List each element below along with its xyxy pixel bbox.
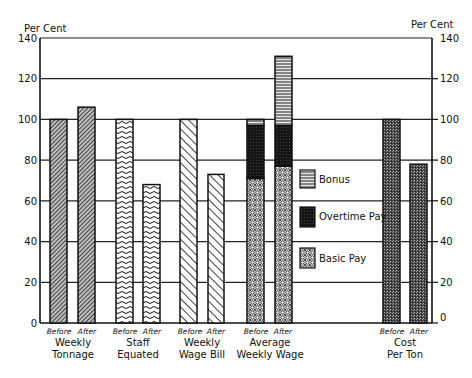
tick-label: 60 bbox=[24, 196, 37, 207]
legend-label-overtime: Overtime Pay bbox=[319, 211, 387, 222]
gridlines bbox=[40, 38, 432, 282]
tick-label: 140 bbox=[440, 33, 459, 44]
label-before: Before bbox=[113, 327, 138, 336]
group-labels: Weekly Tonnage Staff Equated Weekly Wage… bbox=[51, 337, 423, 360]
bar-wage-bill-after bbox=[208, 174, 224, 323]
label-before: Before bbox=[380, 327, 405, 336]
label-after: After bbox=[142, 327, 162, 336]
label-after: After bbox=[409, 327, 429, 336]
bar-weekly-tonnage-before bbox=[50, 119, 67, 323]
bar-avg-wage-after-overtime bbox=[275, 126, 292, 167]
tick-label: 120 bbox=[440, 73, 459, 84]
group-label: Staff bbox=[126, 337, 150, 348]
right-tick-labels: 0 20 40 60 80 100 120 140 bbox=[440, 33, 459, 323]
group-label: Wage Bill bbox=[179, 349, 225, 360]
tick-label: 100 bbox=[440, 114, 459, 125]
tick-label: 80 bbox=[24, 155, 37, 166]
group-label: Average bbox=[249, 337, 290, 348]
legend-swatch-basic bbox=[300, 248, 315, 268]
bar-staff-equated-before bbox=[116, 119, 133, 323]
legend-swatch-bonus bbox=[300, 170, 315, 188]
group-label: Tonnage bbox=[51, 349, 94, 360]
tick-label: 80 bbox=[440, 155, 453, 166]
label-after: After bbox=[273, 327, 293, 336]
tick-label: 40 bbox=[24, 236, 37, 247]
label-before: Before bbox=[178, 327, 203, 336]
tick-label: 0 bbox=[31, 318, 37, 329]
tick-label: 140 bbox=[18, 33, 37, 44]
tick-label: 0 bbox=[440, 312, 446, 323]
bar-weekly-tonnage-after bbox=[78, 107, 95, 323]
bar-avg-wage-after-bonus bbox=[275, 56, 292, 125]
tick-label: 100 bbox=[18, 114, 37, 125]
tick-label: 120 bbox=[18, 73, 37, 84]
bar-avg-wage-before-bonus bbox=[247, 119, 264, 125]
tick-label: 40 bbox=[440, 236, 453, 247]
axes bbox=[40, 38, 432, 323]
label-after: After bbox=[206, 327, 226, 336]
bar-avg-wage-after-basic bbox=[275, 166, 292, 323]
legend: Bonus Overtime Pay Basic Pay bbox=[300, 170, 387, 268]
label-before: Before bbox=[47, 327, 72, 336]
bar-labels: Before After Before After Before After B… bbox=[47, 327, 429, 336]
tick-label: 20 bbox=[440, 277, 453, 288]
bar-avg-wage-before-basic bbox=[247, 178, 264, 323]
legend-label-basic: Basic Pay bbox=[319, 253, 366, 264]
legend-swatch-overtime bbox=[300, 207, 315, 227]
group-label: Weekly Wage bbox=[236, 349, 303, 360]
group-label: Equated bbox=[117, 349, 159, 360]
bar-cost-per-ton-after bbox=[410, 164, 427, 323]
group-label: Weekly bbox=[184, 337, 220, 348]
label-after: After bbox=[77, 327, 97, 336]
group-label: Weekly bbox=[55, 337, 91, 348]
group-label: Per Ton bbox=[387, 349, 423, 360]
legend-label-bonus: Bonus bbox=[319, 174, 350, 185]
bar-chart: Per Cent Per Cent 0 20 40 60 80 100 120 … bbox=[0, 0, 472, 378]
group-label: Cost bbox=[394, 337, 416, 348]
bar-wage-bill-before bbox=[180, 119, 197, 323]
bar-avg-wage-before-overtime bbox=[247, 126, 264, 179]
label-before: Before bbox=[244, 327, 269, 336]
bar-staff-equated-after bbox=[143, 185, 160, 323]
tick-label: 20 bbox=[24, 277, 37, 288]
tick-label: 60 bbox=[440, 196, 453, 207]
left-tick-labels: 0 20 40 60 80 100 120 140 bbox=[18, 33, 37, 329]
bars bbox=[50, 56, 427, 323]
right-axis-title: Per Cent bbox=[411, 19, 454, 30]
